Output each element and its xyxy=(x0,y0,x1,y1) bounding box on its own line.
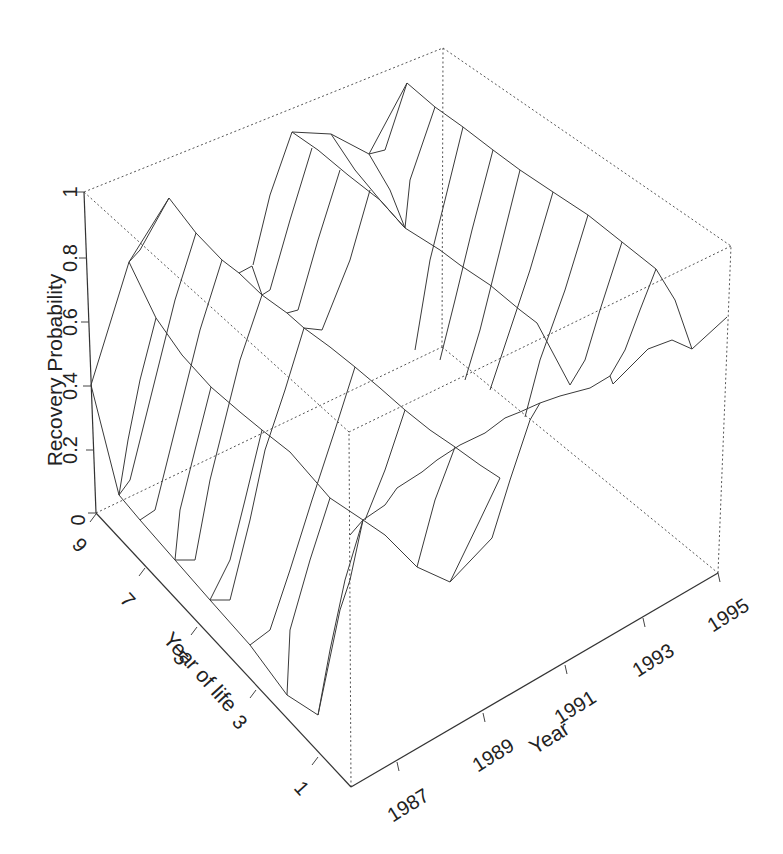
surface-mesh-line xyxy=(363,403,540,582)
z-axis-title: Recovery Probability xyxy=(43,273,66,466)
year-tick-label: 1989 xyxy=(468,734,517,776)
box-vertical-edge xyxy=(442,48,443,347)
box-top-edge xyxy=(84,192,349,432)
bounding-box xyxy=(84,48,731,787)
z-tick-label: 1 xyxy=(59,186,81,197)
wireframe-surface xyxy=(91,83,727,715)
year-tick xyxy=(565,665,567,674)
age-tick xyxy=(90,514,96,522)
surface-mesh-line xyxy=(304,190,370,330)
surface-mesh-line xyxy=(292,83,692,349)
surface-mesh-line xyxy=(119,233,196,495)
surface-mesh-line xyxy=(440,150,493,360)
age-tick xyxy=(139,568,145,576)
year-tick xyxy=(483,713,485,722)
surface-mesh-line xyxy=(450,478,500,582)
surface-mesh-line xyxy=(175,387,211,560)
surface-mesh-line xyxy=(119,318,156,495)
box-vertical-edge xyxy=(349,432,351,787)
surface-mesh-line xyxy=(369,154,405,228)
box-base-edge xyxy=(442,347,718,573)
age-tick xyxy=(250,690,256,698)
surface-mesh-line xyxy=(210,328,304,600)
age-axis-title: Year of life xyxy=(159,627,242,716)
age-tick-label: 7 xyxy=(116,589,140,612)
year-tick-label: 1987 xyxy=(383,784,432,826)
surface-mesh-line xyxy=(570,242,622,385)
box-top-edge xyxy=(443,48,731,246)
surface-mesh-line xyxy=(405,107,435,228)
surface-mesh-line xyxy=(175,295,262,560)
box-top-edge xyxy=(84,48,443,192)
surface-mesh-line xyxy=(465,170,520,380)
surface-mesh-line xyxy=(350,317,727,535)
age-tick-label: 3 xyxy=(228,711,252,734)
surface-mesh-line xyxy=(239,266,252,273)
surface-plot: 00.20.40.60.819753119871989199119931995 … xyxy=(0,0,783,854)
age-axis-line xyxy=(96,513,351,787)
surface-mesh-line xyxy=(253,132,292,265)
year-tick-label: 1993 xyxy=(628,639,677,681)
year-tick xyxy=(718,573,720,582)
surface-mesh-line xyxy=(525,215,588,417)
age-tick xyxy=(312,757,318,765)
age-tick-label: 9 xyxy=(68,534,92,557)
box-vertical-edge xyxy=(718,246,731,573)
surface-mesh-line xyxy=(292,132,570,385)
box-base-edge xyxy=(96,347,442,513)
surface-mesh-line xyxy=(490,192,553,390)
surface-mesh-line xyxy=(91,198,500,478)
z-tick-label: 0 xyxy=(67,514,89,525)
surface-mesh-line xyxy=(287,498,330,695)
age-tick-label: 1 xyxy=(290,777,314,800)
surface-mesh-line xyxy=(331,134,405,228)
surface-mesh-line xyxy=(610,269,656,376)
surface-mesh-line xyxy=(417,447,455,567)
surface-mesh-line xyxy=(262,148,312,295)
surface-mesh-line xyxy=(318,520,363,715)
year-tick xyxy=(643,618,645,627)
age-tick xyxy=(191,627,197,635)
year-tick xyxy=(397,762,399,771)
z-tick-label: 0.8 xyxy=(59,244,81,272)
z-axis-line xyxy=(84,192,96,513)
year-tick-label: 1995 xyxy=(703,594,752,636)
axes: 00.20.40.60.819753119871989199119931995 xyxy=(59,186,753,826)
surface-mesh-line xyxy=(287,170,340,313)
surface-mesh-line xyxy=(365,410,405,520)
surface-mesh-line xyxy=(250,367,355,645)
surface-mesh-line xyxy=(129,262,363,520)
box-top-edge xyxy=(349,246,731,432)
